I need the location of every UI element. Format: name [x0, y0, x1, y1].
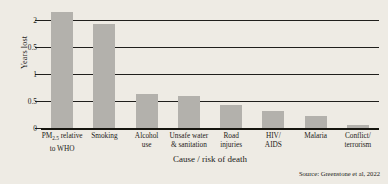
y-tick-label: 0.5: [0, 42, 37, 51]
x-axis-title: Cause / risk of death: [41, 154, 379, 164]
category-label-line2: to WHO: [33, 144, 91, 153]
bar-slot: [337, 9, 379, 128]
y-tick-label: 0.5: [0, 96, 37, 105]
bar-slot: [168, 9, 210, 128]
bar: [262, 111, 284, 128]
category-label-line2: AIDS: [244, 140, 302, 149]
bar: [347, 125, 369, 128]
category-label-subscript: 2.5: [52, 135, 59, 141]
bar-slot: [126, 9, 168, 128]
bar: [305, 116, 327, 128]
y-tick-label: 1: [0, 69, 37, 78]
y-axis-title: Years lost: [20, 13, 29, 93]
x-axis-baseline: [41, 128, 379, 130]
category-label-line1: Conflict/: [329, 131, 387, 140]
bar: [93, 24, 115, 128]
bar-slot: [210, 9, 252, 128]
bar: [136, 94, 158, 128]
category-label-line2: terrorism: [329, 140, 387, 149]
y-tick-label: 2: [0, 15, 37, 24]
bar-chart-figure: Years lost 20.510.50 PM2.5 relativeto WH…: [0, 0, 388, 184]
bar-slot: [252, 9, 294, 128]
bar: [220, 105, 242, 128]
x-axis-category-labels: PM2.5 relativeto WHOSmokingAlcoholuseUns…: [41, 131, 379, 155]
bar-slot: [41, 9, 83, 128]
bar: [51, 12, 73, 128]
plot-area: 20.510.50: [41, 9, 379, 128]
bar-series: [41, 9, 379, 128]
x-axis-category-label: Conflict/terrorism: [329, 131, 387, 150]
bar-slot: [83, 9, 125, 128]
y-tick-label: 0: [0, 124, 37, 133]
bar-slot: [295, 9, 337, 128]
source-note: Source: Greenstone et al, 2022: [299, 170, 380, 177]
bar: [178, 96, 200, 128]
